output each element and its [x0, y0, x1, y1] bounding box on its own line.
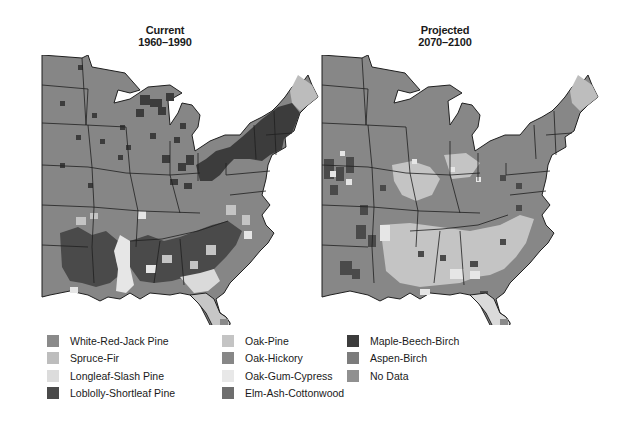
region-florida-south-patch — [500, 319, 508, 325]
legend-swatch — [47, 387, 59, 399]
legend-column-1: White-Red-Jack Pine Spruce-Fir Longleaf-… — [47, 332, 175, 402]
legend-label: Longleaf-Slash Pine — [70, 370, 164, 382]
legend-item: Spruce-Fir — [47, 350, 175, 368]
legend-item: No Data — [347, 367, 459, 385]
legend-item: Loblolly-Shortleaf Pine — [47, 385, 175, 403]
landmass — [322, 55, 598, 325]
legend-swatch — [222, 387, 234, 399]
map-title-current: Current 1960–1990 — [90, 24, 240, 48]
legend-item: Elm-Ash-Cottonwood — [222, 385, 344, 403]
legend-item: White-Red-Jack Pine — [47, 332, 175, 350]
legend-swatch — [47, 335, 59, 347]
map-title-current-period: 1960–1990 — [90, 36, 240, 48]
legend-column-3: Maple-Beech-Birch Aspen-Birch No Data — [347, 332, 459, 385]
map-title-current-label: Current — [90, 24, 240, 36]
legend-swatch — [222, 335, 234, 347]
legend-item: Aspen-Birch — [347, 350, 459, 368]
eastern-us-map-projected — [320, 55, 620, 325]
legend-item: Oak-Gum-Cypress — [222, 367, 344, 385]
legend-swatch — [222, 370, 234, 382]
legend-label: Elm-Ash-Cottonwood — [245, 387, 344, 399]
legend-swatch — [347, 352, 359, 364]
eastern-us-map-current — [30, 55, 320, 325]
map-current-forest-types — [30, 55, 320, 325]
landmass — [42, 55, 318, 325]
legend-label: Maple-Beech-Birch — [370, 335, 459, 347]
legend-swatch — [347, 335, 359, 347]
map-title-projected-period: 2070–2100 — [370, 36, 520, 48]
legend-item: Longleaf-Slash Pine — [47, 367, 175, 385]
legend-label: White-Red-Jack Pine — [70, 335, 169, 347]
region-florida-south-patch — [220, 319, 228, 325]
legend-column-2: Oak-Pine Oak-Hickory Oak-Gum-Cypress Elm… — [222, 332, 344, 402]
legend-item: Oak-Pine — [222, 332, 344, 350]
legend-label: Oak-Pine — [245, 335, 289, 347]
legend-label: Aspen-Birch — [370, 352, 427, 364]
legend-item: Oak-Hickory — [222, 350, 344, 368]
legend-label: Oak-Hickory — [245, 352, 303, 364]
legend-label: No Data — [370, 370, 409, 382]
legend-swatch — [47, 370, 59, 382]
legend-swatch — [347, 370, 359, 382]
legend-label: Loblolly-Shortleaf Pine — [70, 387, 175, 399]
map-projected-forest-types — [320, 55, 620, 325]
legend-swatch — [47, 352, 59, 364]
legend-label: Spruce-Fir — [70, 352, 119, 364]
legend-label: Oak-Gum-Cypress — [245, 370, 333, 382]
map-title-projected: Projected 2070–2100 — [370, 24, 520, 48]
legend-swatch — [222, 352, 234, 364]
map-title-projected-label: Projected — [370, 24, 520, 36]
legend-item: Maple-Beech-Birch — [347, 332, 459, 350]
